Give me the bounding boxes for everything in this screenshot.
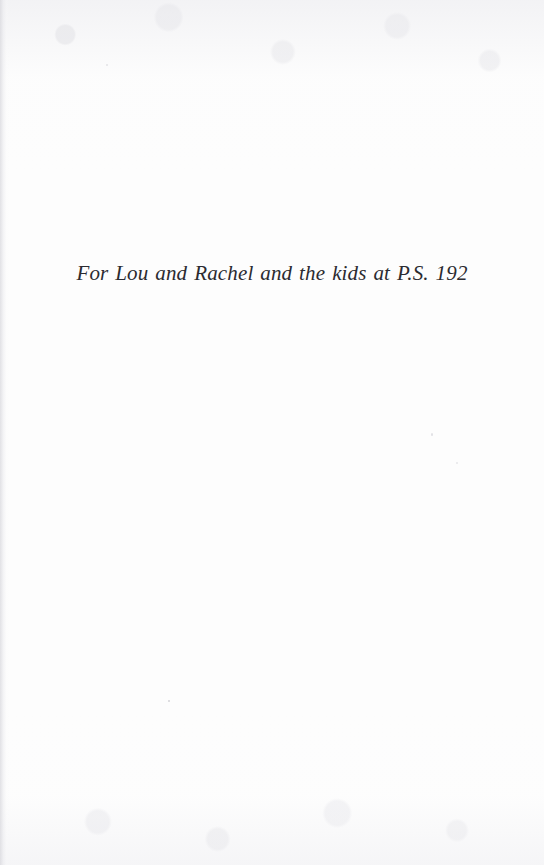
dedication-block: For Lou and Rachel and the kids at P.S. …	[0, 258, 544, 288]
paper-texture	[0, 0, 544, 865]
scan-speck	[431, 433, 433, 436]
scan-speck	[456, 462, 458, 464]
book-page: For Lou and Rachel and the kids at P.S. …	[0, 0, 544, 865]
scan-speck	[106, 64, 108, 66]
page-gutter-shadow	[0, 0, 9, 865]
scan-speck	[168, 700, 170, 702]
dedication-text: For Lou and Rachel and the kids at P.S. …	[76, 258, 467, 288]
